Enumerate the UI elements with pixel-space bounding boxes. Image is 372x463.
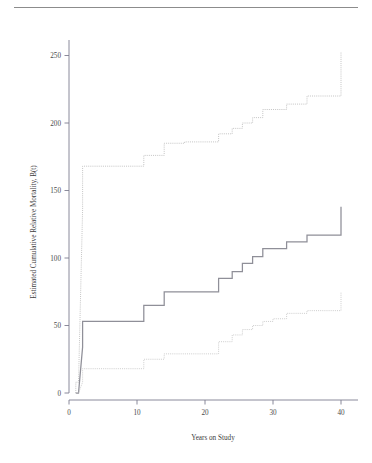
y-tick-label: 100	[50, 255, 61, 263]
chart-figure: 050100150200250 010203040 Estimated Cumu…	[0, 0, 372, 463]
x-axis-title: Years on Study	[191, 434, 235, 442]
axes-group	[69, 40, 358, 400]
y-tick-label: 150	[50, 187, 61, 195]
chart-svg: 050100150200250 010203040 Estimated Cumu…	[0, 0, 372, 463]
figure-page: 050100150200250 010203040 Estimated Cumu…	[0, 0, 372, 463]
y-tick-label: 250	[50, 52, 61, 60]
data-series-layer	[76, 51, 341, 393]
series-point-estimate	[76, 207, 341, 393]
x-tick-label: 0	[67, 409, 71, 417]
y-tick-label: 0	[57, 390, 61, 398]
y-tick-label: 200	[50, 120, 61, 128]
y-axis-ticks: 050100150200250	[50, 52, 69, 398]
series-upper-confidence-bound	[76, 51, 341, 393]
y-axis-title: Estimated Cumulative Relative Mortality,…	[30, 165, 38, 299]
x-tick-label: 10	[133, 409, 141, 417]
y-tick-label: 50	[54, 322, 62, 330]
series-lower-confidence-bound	[76, 292, 341, 393]
x-tick-label: 30	[269, 409, 277, 417]
x-axis-ticks: 010203040	[67, 400, 345, 417]
x-tick-label: 40	[337, 409, 345, 417]
x-tick-label: 20	[201, 409, 209, 417]
